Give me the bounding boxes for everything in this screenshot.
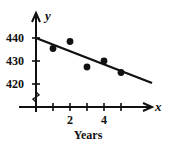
data-point	[101, 58, 108, 65]
y-tick-label: 420	[6, 77, 24, 91]
data-point	[84, 64, 91, 71]
scatter-chart: y 440 430 420 x 2 4 Years	[0, 0, 169, 146]
y-axis-symbol: y	[43, 8, 51, 23]
data-point	[118, 69, 125, 76]
trend-line	[36, 38, 152, 83]
y-tick-label: 440	[6, 31, 24, 45]
x-axis-symbol: x	[154, 99, 162, 114]
x-tick-label: 2	[67, 113, 73, 127]
data-point	[67, 38, 74, 45]
x-axis-label: Years	[74, 128, 103, 142]
y-tick-label: 430	[6, 54, 24, 68]
data-point	[50, 45, 57, 52]
x-tick-label: 4	[101, 113, 107, 127]
